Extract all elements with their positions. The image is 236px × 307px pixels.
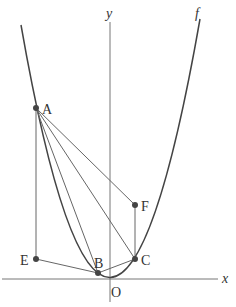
segment-AB: [36, 108, 98, 273]
label-E: E: [20, 253, 29, 268]
label-origin: O: [111, 285, 121, 300]
point-C: [132, 256, 138, 262]
label-B: B: [94, 256, 103, 271]
diagram-canvas: A B C E F O x y f: [0, 0, 236, 307]
point-F: [132, 202, 138, 208]
label-A: A: [42, 102, 53, 117]
segment-AF: [36, 108, 135, 205]
point-E: [33, 256, 39, 262]
segment-AC: [36, 108, 135, 259]
segment-EB: [36, 259, 98, 273]
label-C: C: [141, 253, 150, 268]
point-A: [33, 105, 39, 111]
label-F: F: [141, 199, 149, 214]
label-y-axis: y: [104, 6, 113, 21]
label-x-axis: x: [221, 271, 229, 286]
label-curve-f: f: [195, 6, 201, 21]
